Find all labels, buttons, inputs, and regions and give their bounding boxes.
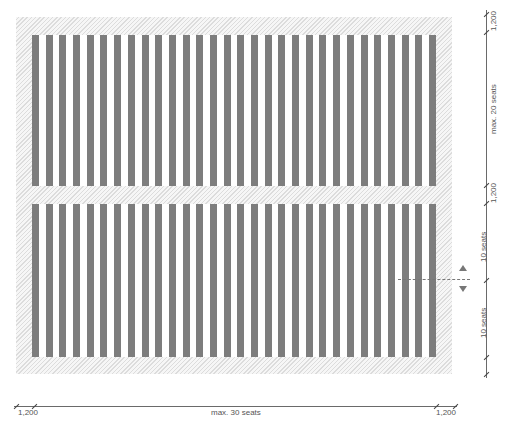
seat-row <box>429 204 436 357</box>
seat-row <box>210 35 217 186</box>
vertical-upper-span-label: max. 20 seats <box>489 84 498 134</box>
horizontal-right-margin-label: 1,200 <box>436 408 456 417</box>
vertical-top-margin-label: 1,200 <box>489 11 498 31</box>
up-arrow-icon <box>459 265 467 271</box>
seat-row <box>73 204 80 357</box>
seat-row <box>429 35 436 186</box>
seat-row <box>292 35 299 186</box>
seat-row <box>265 204 272 357</box>
seat-row <box>59 35 66 186</box>
seat-row <box>361 35 368 186</box>
seat-row <box>278 35 285 186</box>
seat-row <box>251 204 258 357</box>
seat-row <box>73 35 80 186</box>
seat-row <box>128 204 135 357</box>
seat-row <box>183 204 190 357</box>
seat-row <box>292 204 299 357</box>
seat-row <box>32 204 39 357</box>
seat-row <box>32 35 39 186</box>
seat-row <box>361 204 368 357</box>
seat-row <box>142 204 149 357</box>
seat-row <box>347 35 354 186</box>
seat-row <box>196 204 203 357</box>
seat-row <box>114 204 121 357</box>
seat-row <box>224 204 231 357</box>
seat-row <box>128 35 135 186</box>
seat-row <box>251 35 258 186</box>
seat-row <box>100 35 107 186</box>
horizontal-span-label: max. 30 seats <box>211 408 261 417</box>
vertical-aisle-label: 1,200 <box>489 183 498 203</box>
seat-row <box>155 204 162 357</box>
seat-row <box>265 35 272 186</box>
seat-row <box>415 204 422 357</box>
seat-row <box>59 204 66 357</box>
seat-row <box>333 35 340 186</box>
seat-row <box>319 204 326 357</box>
seat-row <box>415 35 422 186</box>
upper-seating-block <box>32 35 436 186</box>
seat-row <box>306 35 313 186</box>
seat-row <box>278 204 285 357</box>
lower-seating-block <box>32 204 436 357</box>
seat-row <box>402 35 409 186</box>
seat-row <box>87 204 94 357</box>
seat-row <box>333 204 340 357</box>
seat-row <box>347 204 354 357</box>
seat-row <box>374 35 381 186</box>
seat-row <box>46 35 53 186</box>
seat-row <box>402 204 409 357</box>
seat-row <box>237 35 244 186</box>
vertical-lower-span-2-label: 10 seats <box>479 308 488 338</box>
seat-row <box>306 204 313 357</box>
seat-row <box>183 35 190 186</box>
seat-row <box>210 204 217 357</box>
seat-row <box>100 204 107 357</box>
vertical-lower-span-1-label: 10 seats <box>479 232 488 262</box>
split-dashed-line <box>398 279 470 280</box>
seat-row <box>114 35 121 186</box>
seat-row <box>169 35 176 186</box>
seat-row <box>388 35 395 186</box>
down-arrow-icon <box>459 286 467 292</box>
seat-row <box>196 35 203 186</box>
seat-row <box>46 204 53 357</box>
seat-row <box>388 204 395 357</box>
seat-row <box>319 35 326 186</box>
seat-row <box>374 204 381 357</box>
seat-row <box>155 35 162 186</box>
seat-row <box>87 35 94 186</box>
seat-row <box>169 204 176 357</box>
seat-row <box>237 204 244 357</box>
seat-row <box>142 35 149 186</box>
seat-row <box>224 35 231 186</box>
horizontal-dimension-line <box>14 406 457 407</box>
horizontal-left-margin-label: 1,200 <box>18 408 38 417</box>
